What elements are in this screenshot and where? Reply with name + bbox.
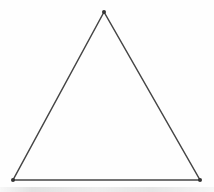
scanned-triangle-figure [0, 0, 214, 192]
triangle-outline [13, 12, 200, 180]
vertex-dot-bottom-right [198, 178, 202, 182]
vertex-dot-bottom-left [11, 178, 15, 182]
scan-artifact-smudge [0, 187, 214, 192]
triangle-canvas [0, 0, 214, 192]
vertex-dot-apex [102, 10, 106, 14]
